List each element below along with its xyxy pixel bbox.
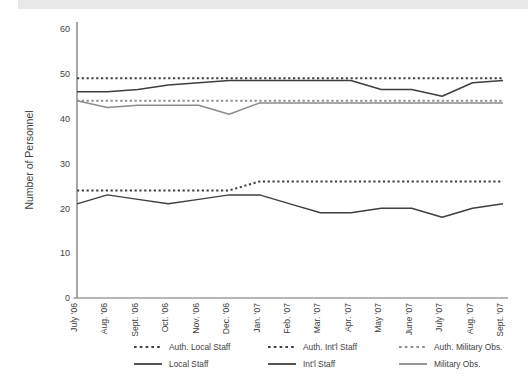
y-tick-label: 50	[60, 69, 70, 79]
x-tick-label: Sept. '06	[130, 303, 140, 337]
x-tick-label: Dec. '06	[221, 303, 231, 334]
chart-legend: Auth. Local StaffAuth. Int'l StaffAuth. …	[134, 342, 502, 369]
line-chart-svg: Number of Personnel 0102030405060 July '…	[0, 0, 528, 390]
y-tick-label: 30	[60, 159, 70, 169]
legend-label[interactable]: Local Staff	[169, 359, 209, 369]
legend-label[interactable]: Auth. Military Obs.	[434, 342, 502, 352]
y-tick-label: 0	[65, 293, 70, 303]
x-tick-label: Oct. '06	[160, 303, 170, 333]
x-tick-label: May '07	[373, 303, 383, 333]
legend-label[interactable]: Int'l Staff	[303, 359, 336, 369]
legend-label[interactable]: Auth. Local Staff	[169, 342, 231, 352]
legend-label[interactable]: Auth. Int'l Staff	[303, 342, 358, 352]
x-tick-label: Mar. '07	[312, 303, 322, 334]
y-tick-label: 20	[60, 204, 70, 214]
x-tick-label: June '07	[404, 303, 414, 335]
x-tick-label: Aug. '06	[99, 303, 109, 334]
x-tick-label: Nov. '06	[191, 303, 201, 334]
x-tick-label: Sept. '07	[495, 303, 505, 337]
y-axis-ticks: 0102030405060	[60, 24, 77, 303]
y-tick-label: 10	[60, 248, 70, 258]
series-line	[77, 195, 503, 217]
x-tick-label: July '06	[69, 303, 79, 332]
y-axis-title: Number of Personnel	[23, 110, 35, 209]
y-tick-label: 60	[60, 24, 70, 34]
y-tick-label: 40	[60, 114, 70, 124]
legend-label[interactable]: Military Obs.	[434, 359, 481, 369]
series-line	[77, 101, 503, 114]
x-axis-ticks: July '06Aug. '06Sept. '06Oct. '06Nov. '0…	[69, 303, 505, 337]
x-tick-label: Feb. '07	[282, 303, 292, 334]
chart-figure: Number of Personnel 0102030405060 July '…	[0, 0, 528, 390]
data-series-group	[77, 78, 503, 217]
series-line	[77, 81, 503, 97]
x-tick-label: Jan. '07	[252, 303, 262, 333]
x-tick-label: July '07	[434, 303, 444, 332]
x-tick-label: Apr. '07	[343, 303, 353, 332]
x-tick-label: Aug. '07	[465, 303, 475, 334]
series-line	[77, 181, 503, 190]
